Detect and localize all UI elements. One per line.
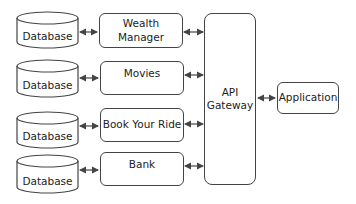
gateway-label-line1: API — [222, 86, 239, 99]
service-label: Book Your Ride — [103, 118, 182, 131]
application-label: Application — [279, 91, 338, 104]
database-label: Database — [17, 30, 78, 42]
service-label: Wealth Manager — [100, 17, 182, 43]
database-1: Database — [17, 12, 78, 50]
service-label: Bank — [129, 158, 155, 171]
database-label: Database — [17, 79, 78, 91]
service-bank: Bank — [100, 152, 184, 186]
database-3: Database — [17, 112, 78, 150]
service-label: Movies — [124, 67, 161, 80]
gateway-label-line2: Gateway — [207, 99, 253, 112]
api-gateway: API Gateway — [204, 13, 256, 185]
database-2: Database — [17, 60, 78, 98]
service-movies: Movies — [100, 61, 184, 95]
application: Application — [277, 82, 339, 114]
database-4: Database — [17, 155, 78, 193]
database-label: Database — [17, 175, 78, 187]
service-wealth-manager: Wealth Manager — [99, 13, 183, 48]
service-book-your-ride: Book Your Ride — [100, 108, 184, 142]
database-label: Database — [17, 130, 78, 142]
